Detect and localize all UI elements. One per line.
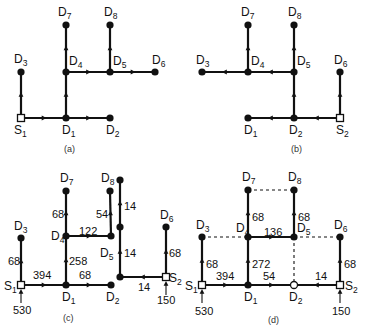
node-label-base: D (288, 170, 297, 184)
arrow-left-icon (314, 283, 319, 288)
arrow-right-icon (42, 116, 47, 121)
node-label-subscript: 1 (22, 129, 27, 139)
demand-node-icon (62, 281, 69, 288)
network-flow-diagram: 530150530150 D7D8D3D4D5D6S1D1D2D7D8D3D4D… (0, 0, 367, 335)
node-label-d5: D5 (297, 54, 311, 70)
demand-node-icon (290, 114, 297, 121)
node-label-subscript: 1 (193, 285, 198, 295)
node-label-subscript: 1 (253, 296, 258, 306)
node-label-base: D (58, 5, 67, 19)
flow-value: 258 (69, 255, 87, 267)
node-label-subscript: 3 (205, 224, 210, 234)
node-label-subscript: 6 (169, 214, 174, 224)
flow-value: 14 (124, 247, 136, 259)
node-label-subscript: 3 (23, 58, 28, 68)
supply-arrow-icon (338, 289, 343, 294)
node-label-s1: S1 (185, 279, 198, 295)
panel-caption-a: (a) (64, 144, 75, 154)
node-label-base: D (244, 123, 253, 137)
node-label-subscript: 4 (260, 60, 265, 70)
demand-node-icon (336, 68, 343, 75)
node-label-base: D (152, 53, 161, 67)
node-label-base: D (69, 54, 78, 68)
arrow-left-icon (314, 116, 319, 121)
flow-value: 68 (79, 269, 91, 281)
node-label-base: D (297, 54, 306, 68)
demand-node-icon (107, 281, 114, 288)
panel-d: (d) (268, 315, 279, 325)
demand-node-icon (107, 232, 114, 239)
flow-value: 14 (315, 270, 327, 282)
node-label-base: D (104, 5, 113, 19)
node-label-base: S (14, 123, 22, 137)
node-label-s1: S1 (4, 279, 17, 295)
node-label-subscript: 1 (253, 129, 258, 139)
node-label-subscript: 8 (110, 177, 115, 187)
demand-node-icon (106, 187, 113, 194)
node-label-base: D (236, 221, 245, 235)
source-node-icon (199, 282, 206, 289)
demand-node-icon (62, 187, 69, 194)
demand-node-icon (198, 68, 205, 75)
node-label-subscript: 5 (306, 227, 311, 237)
node-label-base: D (14, 52, 23, 66)
demand-node-icon (62, 68, 69, 75)
flow-value: 272 (252, 258, 270, 270)
labels-layer: D7D8D3D4D5D6S1D1D2D7D8D3D4D5D6D1D2S2D7D8… (4, 5, 358, 306)
node-label-base: D (251, 54, 260, 68)
node-label-subscript: 6 (161, 59, 166, 69)
arrow-up-icon (108, 46, 113, 51)
node-label-base: D (106, 123, 115, 137)
source-node-icon (18, 282, 25, 289)
demand-node-icon (162, 223, 169, 230)
node-label-subscript: 5 (122, 60, 127, 70)
node-label-d2: D2 (289, 290, 303, 306)
demand-node-icon (244, 281, 251, 288)
node-label-subscript: 8 (113, 11, 118, 21)
demand-node-icon (106, 114, 113, 121)
node-label-subscript: 6 (343, 59, 348, 69)
panel-c: 530150 (13, 281, 175, 316)
flow-value: 68 (52, 208, 64, 220)
node-label-base: D (62, 290, 71, 304)
node-label-base: D (106, 290, 115, 304)
panel-caption-c: (c) (63, 313, 74, 323)
flow-value: 122 (79, 225, 97, 237)
node-label-subscript: 2 (177, 277, 182, 287)
node-label-base: D (196, 218, 205, 232)
node-label-subscript: 7 (250, 11, 255, 21)
node-label-d8: D8 (101, 171, 115, 187)
demand-node-icon (244, 114, 251, 121)
node-label-base: S (185, 279, 193, 293)
arrow-up-icon (64, 92, 69, 97)
node-label-d7: D7 (242, 170, 256, 186)
node-label-subscript: 4 (60, 235, 65, 245)
supply-arrow-icon (200, 289, 205, 294)
arrow-up-icon (19, 92, 24, 97)
demand-node-icon (116, 176, 123, 183)
arrow-up-icon (118, 201, 123, 206)
flow-values-layer: 6839468258681225414141468683945414272681… (8, 200, 356, 293)
flow-value: 136 (264, 226, 282, 238)
arrow-up-icon (164, 249, 169, 254)
node-label-d6: D6 (334, 53, 348, 69)
node-label-d8: D8 (288, 170, 302, 186)
node-label-d6: D6 (152, 53, 166, 69)
node-label-subscript: 3 (205, 59, 210, 69)
node-label-base: D (334, 53, 343, 67)
supply-value: 530 (13, 304, 31, 316)
arrow-up-icon (118, 249, 123, 254)
node-label-subscript: 2 (115, 129, 120, 139)
demand-node-icon (244, 68, 251, 75)
arrow-up-icon (246, 46, 251, 51)
panel-a: (a) (64, 144, 75, 154)
arrow-right-icon (42, 283, 47, 288)
source-node-icon (337, 115, 344, 122)
node-label-base: D (289, 123, 298, 137)
node-label-subscript: 5 (109, 252, 114, 262)
node-label-subscript: 4 (245, 227, 250, 237)
arrow-up-icon (108, 211, 113, 216)
node-label-subscript: 8 (297, 176, 302, 186)
node-label-base: S (4, 279, 12, 293)
arrow-up-icon (338, 258, 343, 263)
